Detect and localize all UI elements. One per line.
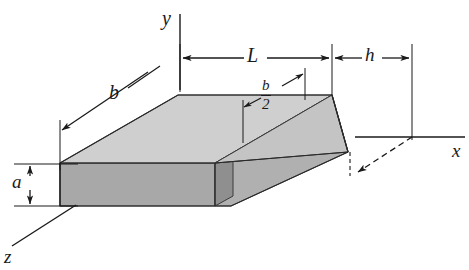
dimension-label-b-over-2: b 2 <box>261 78 271 113</box>
fraction-denominator: 2 <box>261 96 271 113</box>
fraction-numerator: b <box>261 78 271 96</box>
front-face <box>60 163 215 206</box>
axis-label-y: y <box>162 8 171 28</box>
dashed-leader <box>350 137 412 176</box>
dimension-label-b: b <box>109 82 119 102</box>
dimension-b-leader-upper <box>128 66 160 88</box>
dimension-label-a: a <box>12 172 22 191</box>
tapered-beam-solid <box>60 95 348 206</box>
axis-label-x: x <box>452 141 460 160</box>
dashed-leader-line <box>358 137 412 172</box>
dimension-label-L: L <box>247 45 258 65</box>
dimension-label-h: h <box>365 45 375 64</box>
figure-root: y x z b L h a b 2 <box>0 0 469 270</box>
dimension-b-over-2-leader-right <box>282 74 303 86</box>
axis-label-z: z <box>4 247 11 266</box>
z-axis <box>12 205 76 246</box>
diagram-canvas <box>0 0 469 270</box>
